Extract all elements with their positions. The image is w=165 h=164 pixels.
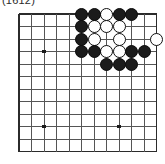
go-stone-black[interactable] xyxy=(113,8,126,21)
star-point-upper-left xyxy=(42,50,46,54)
go-stone-black[interactable] xyxy=(125,45,138,58)
go-board[interactable] xyxy=(6,8,159,159)
go-stone-black[interactable] xyxy=(100,58,113,71)
go-stone-white[interactable] xyxy=(113,33,126,46)
star-point-lower-right xyxy=(117,125,121,129)
go-stone-white[interactable] xyxy=(100,8,113,21)
go-stone-white[interactable] xyxy=(150,33,163,46)
go-diagram-figure: (1612) xyxy=(0,0,165,164)
go-stone-black[interactable] xyxy=(125,8,138,21)
go-stone-black[interactable] xyxy=(88,8,101,21)
go-stone-black[interactable] xyxy=(75,45,88,58)
star-point-lower-left xyxy=(42,125,46,129)
go-stone-white[interactable] xyxy=(113,20,126,33)
go-stone-black[interactable] xyxy=(75,20,88,33)
go-stone-white[interactable] xyxy=(88,20,101,33)
go-stone-black[interactable] xyxy=(75,33,88,46)
go-stone-black[interactable] xyxy=(88,45,101,58)
go-stone-white[interactable] xyxy=(88,33,101,46)
go-stone-white[interactable] xyxy=(100,20,113,33)
go-stone-white[interactable] xyxy=(113,45,126,58)
figure-caption: (1612) xyxy=(2,0,35,6)
go-stone-black[interactable] xyxy=(75,8,88,21)
go-stone-black[interactable] xyxy=(125,58,138,71)
go-stone-black[interactable] xyxy=(113,58,126,71)
go-stone-black[interactable] xyxy=(138,45,151,58)
go-stone-white[interactable] xyxy=(100,45,113,58)
